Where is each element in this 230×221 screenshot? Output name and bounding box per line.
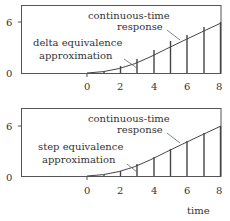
top-y-label-0: 0 bbox=[6, 68, 12, 79]
bottom-x-label-6: 6 bbox=[184, 185, 190, 196]
x-axis-label: time bbox=[187, 205, 210, 216]
bottom-x-label-0: 0 bbox=[84, 185, 90, 196]
bottom-x-label-8: 8 bbox=[216, 185, 222, 196]
bottom-panel: 6 0 0 2 4 6 8 continuous-time response s… bbox=[6, 109, 222, 217]
top-approx-label-1: delta equivalence bbox=[33, 37, 122, 48]
top-y-label-6: 6 bbox=[6, 17, 12, 28]
top-curve-label-1: continuous-time bbox=[88, 10, 170, 21]
top-x-label-2: 2 bbox=[117, 81, 123, 92]
top-x-label-4: 4 bbox=[151, 81, 157, 92]
bottom-x-label-2: 2 bbox=[117, 185, 123, 196]
bottom-approx-label-1: step equivalence bbox=[38, 141, 123, 152]
bottom-curve-label-2: response bbox=[117, 124, 163, 135]
bottom-curve-label-1: continuous-time bbox=[88, 113, 170, 124]
bottom-curve-leader bbox=[167, 133, 180, 143]
top-x-label-8: 8 bbox=[216, 81, 222, 92]
top-curve-leader bbox=[167, 30, 180, 40]
bottom-approx-leader bbox=[127, 164, 137, 172]
bottom-y-label-6: 6 bbox=[6, 121, 12, 132]
bottom-y-label-0: 0 bbox=[6, 172, 12, 183]
top-x-label-6: 6 bbox=[184, 81, 190, 92]
top-x-label-0: 0 bbox=[84, 81, 90, 92]
top-curve-label-2: response bbox=[117, 21, 163, 32]
top-panel: 6 0 0 2 4 6 8 continuous-time response d… bbox=[6, 6, 222, 93]
top-approx-label-2: approximation bbox=[39, 50, 113, 61]
bottom-approx-label-2: approximation bbox=[42, 154, 116, 165]
chart-figure: 6 0 0 2 4 6 8 continuous-time response d… bbox=[0, 0, 230, 221]
bottom-x-label-4: 4 bbox=[151, 185, 157, 196]
